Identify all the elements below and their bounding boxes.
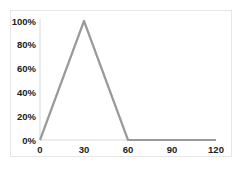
- axes: [40, 19, 216, 140]
- line-chart: 0%20%40%60%80%100% 0306090120: [0, 0, 247, 169]
- x-tick-label: 120: [208, 144, 224, 155]
- y-tick-label: 20%: [17, 111, 37, 122]
- y-axis-ticks: 0%20%40%60%80%100%: [12, 16, 37, 146]
- x-tick-label: 90: [167, 144, 178, 155]
- x-tick-label: 60: [123, 144, 134, 155]
- x-axis-ticks: 0306090120: [37, 144, 224, 155]
- y-tick-label: 80%: [17, 39, 37, 50]
- y-tick-label: 0%: [22, 135, 36, 146]
- y-tick-label: 100%: [12, 16, 37, 27]
- y-tick-label: 40%: [17, 87, 37, 98]
- y-tick-label: 60%: [17, 63, 37, 74]
- series-layer: [40, 21, 216, 140]
- x-tick-label: 30: [79, 144, 90, 155]
- series-line: [40, 21, 216, 140]
- x-tick-label: 0: [37, 144, 42, 155]
